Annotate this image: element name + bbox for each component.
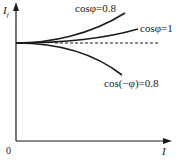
- curve-label-cos-1: cosφ=1: [140, 23, 173, 34]
- curve-label-cos-neg-0.8: cos(−φ)=0.8: [104, 78, 159, 89]
- curve-cos-0.8: [16, 13, 125, 43]
- curve-label-cos-0.8: cosφ=0.8: [75, 3, 116, 14]
- curve-cos-neg-0.8: [16, 43, 122, 75]
- y-axis-label-subscript: f: [7, 11, 9, 19]
- y-axis-label: If: [3, 5, 9, 19]
- x-axis-arrow-icon: [163, 138, 172, 144]
- origin-label: 0: [6, 146, 11, 156]
- x-axis-label: I: [162, 146, 166, 157]
- curve-cos-1: [16, 29, 138, 43]
- y-axis-arrow-icon: [13, 2, 19, 11]
